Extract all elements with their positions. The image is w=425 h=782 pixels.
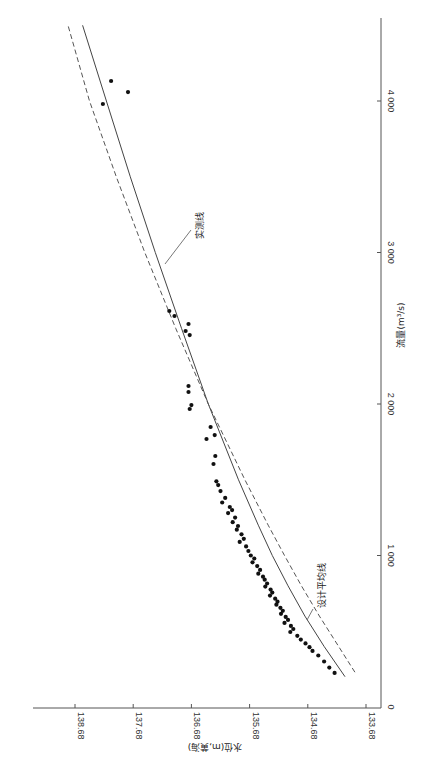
data-point xyxy=(295,634,299,638)
data-point xyxy=(186,322,190,326)
level-tick-label: 138.68 xyxy=(76,712,86,740)
data-point xyxy=(268,594,272,598)
data-point xyxy=(333,671,337,675)
data-point xyxy=(172,314,176,318)
flow-tick-label: 2 000 xyxy=(386,393,396,416)
measured-points xyxy=(101,79,337,675)
flow-axis-title: 流量(m³/s) xyxy=(395,302,406,347)
level-tick-label: 134.68 xyxy=(309,712,319,740)
data-point xyxy=(220,500,224,504)
data-point xyxy=(252,556,256,560)
data-point xyxy=(186,390,190,394)
data-point xyxy=(184,329,188,333)
level-tick-label: 137.68 xyxy=(134,712,144,740)
flow-tick-label: 4 000 xyxy=(386,90,396,113)
data-point xyxy=(213,454,217,458)
data-point xyxy=(235,528,239,532)
data-point xyxy=(249,553,253,557)
flow-tick-label: 0 xyxy=(386,704,396,709)
data-point xyxy=(303,641,307,645)
data-point xyxy=(214,479,218,483)
data-point xyxy=(109,79,113,83)
data-point xyxy=(288,630,292,634)
data-point xyxy=(255,564,259,568)
measured-label: 实测线 xyxy=(194,212,205,239)
data-point xyxy=(226,511,230,515)
flow-axis-ticks: 01 0002 0003 0004 000 xyxy=(377,90,396,710)
level-axis-ticks: 133.68134.68135.68136.68137.68138.68 xyxy=(75,704,377,740)
annotation-measured: 实测线 xyxy=(165,212,205,265)
data-point xyxy=(223,496,227,500)
data-point xyxy=(299,638,303,642)
design-label: 设计平均线 xyxy=(316,563,327,608)
data-point xyxy=(230,508,234,512)
level-axis-title: 水位(m,黄海) xyxy=(188,742,243,753)
data-point xyxy=(279,612,283,616)
axes xyxy=(33,18,381,708)
data-point xyxy=(101,102,105,106)
data-point xyxy=(216,483,220,487)
data-point xyxy=(263,578,267,582)
data-point xyxy=(307,645,311,649)
data-point xyxy=(188,333,192,337)
data-point xyxy=(286,618,290,622)
data-point xyxy=(256,572,260,576)
data-point xyxy=(209,425,213,429)
data-point xyxy=(211,462,215,466)
data-point xyxy=(244,544,248,548)
design-average-curve xyxy=(68,25,355,672)
data-point xyxy=(126,90,130,94)
data-point xyxy=(310,649,314,653)
data-point xyxy=(188,407,192,411)
data-point xyxy=(291,627,295,631)
data-point xyxy=(250,560,254,564)
measured-curve xyxy=(83,25,345,676)
data-point xyxy=(213,433,217,437)
data-point xyxy=(204,437,208,441)
data-point xyxy=(233,516,237,520)
data-point xyxy=(274,603,278,607)
data-point xyxy=(242,537,246,541)
design-leader-line xyxy=(307,609,313,620)
flow-tick-label: 3 000 xyxy=(386,241,396,264)
data-point xyxy=(258,568,262,572)
annotation-design: 设计平均线 xyxy=(307,563,327,621)
data-point xyxy=(189,403,193,407)
data-point xyxy=(231,520,235,524)
data-point xyxy=(282,621,286,625)
data-point xyxy=(316,653,320,657)
level-tick-label: 133.68 xyxy=(367,712,377,740)
stage-discharge-chart: 133.68134.68135.68136.68137.68138.68 01 … xyxy=(0,0,425,782)
data-point xyxy=(239,532,243,536)
measured-leader-line xyxy=(165,230,191,264)
data-point xyxy=(246,549,250,553)
data-point xyxy=(218,489,222,493)
data-point xyxy=(238,540,242,544)
data-point xyxy=(327,666,331,670)
data-point xyxy=(263,585,267,589)
level-tick-label: 136.68 xyxy=(192,712,202,740)
level-tick-label: 135.68 xyxy=(251,712,261,740)
data-point xyxy=(236,524,240,528)
flow-tick-label: 1 000 xyxy=(386,544,396,567)
data-point xyxy=(186,384,190,388)
data-point xyxy=(167,309,171,313)
data-point xyxy=(322,659,326,663)
